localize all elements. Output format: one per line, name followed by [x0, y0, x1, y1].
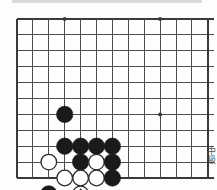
stone-white[interactable] [89, 154, 105, 170]
stone-white[interactable] [89, 170, 105, 186]
stone-white[interactable] [73, 170, 89, 186]
stone-black[interactable] [104, 154, 120, 170]
stone-black[interactable] [88, 138, 104, 154]
stone-white[interactable] [41, 154, 57, 170]
stone-black[interactable] [56, 106, 72, 122]
stone-black[interactable] [104, 170, 120, 186]
stone-black[interactable] [72, 154, 88, 170]
figure-page: 中級 [0, 0, 217, 190]
stone-black[interactable] [56, 138, 72, 154]
stone-black[interactable] [104, 138, 120, 154]
stone-white[interactable] [57, 170, 73, 186]
stone-white[interactable] [73, 186, 89, 190]
go-board[interactable] [0, 0, 217, 190]
stone-black[interactable] [41, 186, 57, 190]
side-caption-text: 中級 [201, 146, 215, 182]
stone-black[interactable] [72, 138, 88, 154]
go-board-canvas[interactable] [0, 0, 217, 190]
